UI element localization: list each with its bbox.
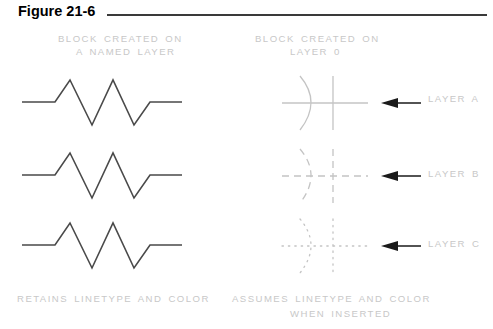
right-column-caption-line2: WHEN INSERTED (290, 308, 391, 319)
right-column-heading-line1: BLOCK CREATED ON (255, 33, 380, 44)
zigzag-symbol-left-c (22, 223, 182, 268)
arrow-to-layer-b (381, 171, 421, 181)
left-column-caption: RETAINS LINETYPE AND COLOR (17, 293, 210, 304)
left-column-heading-line2: A NAMED LAYER (76, 46, 175, 57)
left-column-heading-line1: BLOCK CREATED ON (58, 33, 183, 44)
figure-header-rule (107, 14, 487, 16)
right-column-heading-line2: LAYER 0 (290, 46, 341, 57)
layer-label-c: LAYER C (428, 238, 481, 249)
diagram-row-layer-b (0, 143, 493, 213)
diagram-row-layer-c (0, 213, 493, 283)
row-c-artwork (0, 213, 493, 283)
zigzag-symbol-left-a (22, 80, 182, 125)
layer-label-a: LAYER A (428, 93, 479, 104)
figure-header: Figure 21-6 (0, 0, 493, 26)
right-column-caption-line1: ASSUMES LINETYPE AND COLOR (232, 293, 431, 304)
row-a-artwork (0, 70, 493, 140)
row-b-artwork (0, 143, 493, 213)
diagram-row-layer-a (0, 70, 493, 140)
zigzag-symbol-left-b (22, 153, 182, 198)
figure-title: Figure 21-6 (18, 3, 95, 19)
arrow-to-layer-c (381, 241, 421, 251)
arrow-to-layer-a (381, 98, 421, 108)
layer-label-b: LAYER B (428, 168, 480, 179)
